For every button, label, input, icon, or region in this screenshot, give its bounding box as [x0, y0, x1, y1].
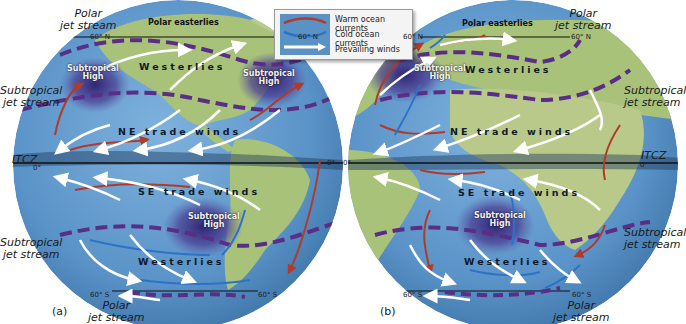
a-polar-jet-north-label: Polar jet stream	[60, 8, 116, 32]
warm-current-icon	[284, 19, 326, 24]
b-polar-easterlies-label: Polar easterlies	[462, 20, 533, 29]
legend-winds-label: Prevailing winds	[335, 45, 400, 54]
b-westerlies-north-label: Westerlies	[465, 65, 552, 75]
b-ne-trade-winds-label: NE trade winds	[450, 127, 573, 137]
a-lat-0-left: 0°	[33, 165, 41, 173]
a-subtropical-high-ne-label: Subtropical High	[243, 70, 295, 87]
b-polar-jet-north-label: Polar jet stream	[555, 8, 611, 32]
a-polar-easterlies-label: Polar easterlies	[148, 19, 219, 28]
a-lat-60n-left: 60° N	[90, 34, 110, 42]
panel-b-label: (b)	[380, 306, 396, 318]
a-subtropical-high-south-label: Subtropical High	[188, 213, 240, 230]
a-polar-jet-south-label: Polar jet stream	[88, 300, 144, 324]
b-westerlies-south-label: Westerlies	[464, 257, 551, 267]
panel-a-label: (a)	[52, 306, 67, 318]
b-lat-60s-left: 60° S	[403, 292, 422, 300]
a-subtropical-jet-south-label: Subtropical jet stream	[0, 237, 62, 261]
a-lat-60s-right: 60° S	[258, 292, 277, 300]
b-lat-60n-left: 60° N	[403, 34, 423, 42]
b-lat-60n-right: 60° N	[571, 34, 591, 42]
a-ne-trade-winds-label: NE trade winds	[118, 127, 241, 137]
b-subtropical-high-south-label: Subtropical High	[474, 212, 526, 229]
a-subtropical-jet-north-label: Subtropical jet stream	[0, 85, 62, 109]
a-westerlies-south-label: Westerlies	[138, 257, 225, 267]
a-subtropical-high-nw-label: Subtropical High	[67, 65, 119, 82]
b-lat-0-right: 0°	[640, 162, 648, 170]
a-lat-60s-left: 60° S	[90, 292, 109, 300]
b-subtropical-jet-north-label: Subtropical jet stream	[624, 85, 686, 109]
a-westerlies-north-label: Westerlies	[139, 62, 226, 72]
b-polar-jet-south-label: Polar jet stream	[553, 300, 609, 324]
a-lat-0-right: 0°	[327, 160, 335, 168]
a-lat-60n-right: 60° N	[298, 34, 318, 42]
a-se-trade-winds-label: SE trade winds	[138, 187, 260, 197]
legend: Warm ocean currents Cold ocean currents …	[274, 9, 413, 60]
b-subtropical-jet-south-label: Subtropical jet stream	[624, 227, 686, 251]
b-subtropical-high-north-label: Subtropical High	[414, 65, 466, 82]
b-lat-0-left: 0°	[343, 160, 351, 168]
b-se-trade-winds-label: SE trade winds	[458, 188, 580, 198]
b-lat-60s-right: 60° S	[572, 292, 591, 300]
